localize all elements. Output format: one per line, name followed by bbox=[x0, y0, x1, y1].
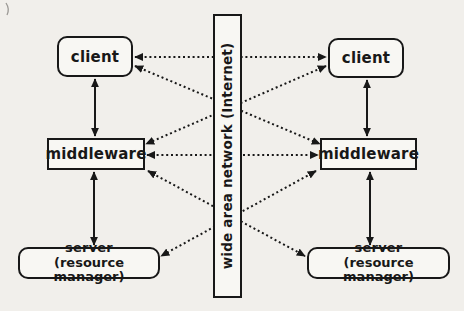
node-client-right-label: client bbox=[342, 50, 390, 66]
scan-artifact bbox=[6, 3, 8, 15]
node-server-left-label-line1: server bbox=[65, 241, 113, 256]
node-server-left-label-line2: (resource manager) bbox=[20, 256, 158, 285]
node-middleware-right: middleware bbox=[320, 138, 417, 170]
node-server-right-label-line1: server bbox=[355, 241, 403, 256]
node-middleware-left: middleware bbox=[47, 138, 145, 170]
middleware-diagram: client middleware server (resource manag… bbox=[0, 0, 464, 311]
node-wan: wide area network (Internet) bbox=[213, 14, 242, 298]
node-server-left: server (resource manager) bbox=[18, 247, 160, 279]
node-client-right: client bbox=[328, 38, 404, 78]
node-middleware-right-label: middleware bbox=[318, 146, 419, 162]
node-client-left: client bbox=[57, 36, 133, 77]
node-server-right-label-line2: (resource manager) bbox=[309, 256, 448, 285]
node-server-right: server (resource manager) bbox=[307, 247, 450, 279]
node-middleware-left-label: middleware bbox=[45, 146, 146, 162]
node-client-left-label: client bbox=[71, 49, 119, 65]
wan-label: wide area network (Internet) bbox=[220, 43, 236, 270]
